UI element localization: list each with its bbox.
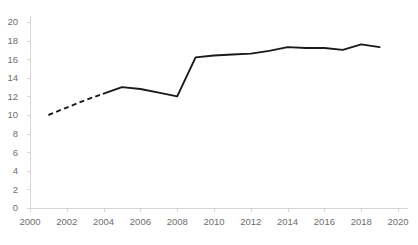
y-tick-label: 6 [13, 147, 18, 158]
line-chart: 02468101214161820 2000200220042006200820… [0, 0, 418, 245]
x-axis-tick-labels: 2000200220042006200820102012201420162018… [19, 216, 408, 227]
y-tick-label: 16 [7, 54, 18, 65]
y-tick-label: 10 [7, 109, 18, 120]
y-tick-label: 14 [7, 72, 18, 83]
x-tick-label: 2020 [387, 216, 408, 227]
y-axis-tick-labels: 02468101214161820 [7, 16, 18, 213]
x-tick-label: 2000 [19, 216, 40, 227]
series-line-estimated [48, 94, 103, 115]
axis-lines [31, 16, 409, 209]
y-tick-label: 8 [13, 128, 18, 139]
data-series-group [48, 44, 379, 115]
chart-canvas: 02468101214161820 2000200220042006200820… [0, 0, 418, 245]
y-tick-label: 2 [13, 184, 18, 195]
x-tick-label: 2012 [240, 216, 261, 227]
x-axis-tick-marks [31, 209, 399, 212]
y-tick-label: 0 [13, 202, 18, 213]
y-tick-label: 4 [13, 165, 18, 176]
y-tick-label: 12 [7, 91, 18, 102]
x-tick-label: 2016 [314, 216, 335, 227]
x-tick-label: 2014 [277, 216, 298, 227]
series-line-observed [104, 44, 380, 96]
x-tick-label: 2004 [93, 216, 114, 227]
x-tick-label: 2018 [351, 216, 372, 227]
y-axis-tick-marks [27, 23, 30, 209]
y-tick-label: 18 [7, 35, 18, 46]
x-tick-label: 2006 [130, 216, 151, 227]
y-tick-label: 20 [7, 16, 18, 27]
x-tick-label: 2008 [167, 216, 188, 227]
x-tick-label: 2010 [203, 216, 224, 227]
x-tick-label: 2002 [56, 216, 77, 227]
